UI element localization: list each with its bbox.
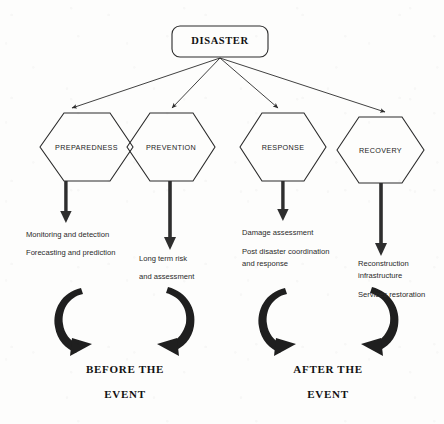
cycle-arc-right-outer	[258, 288, 296, 356]
cycle-caption-after-line2: EVENT	[263, 382, 393, 407]
connector-to-response	[220, 58, 278, 108]
cycle-arc-left-outer	[54, 288, 92, 356]
cycle-arc-left-inner	[157, 287, 195, 356]
cycle-caption-before-line1: BEFORE THE	[60, 357, 190, 382]
hexagon-label-preparedness: PREPAREDNESS	[40, 143, 133, 152]
description-response-1: Damage assessment	[242, 226, 313, 240]
connector-arrows	[72, 58, 385, 112]
thick-arrow-prevention	[164, 181, 176, 250]
hexagon-label-response: RESPONSE	[240, 143, 326, 152]
connector-to-recovery	[220, 58, 385, 112]
description-preparedness-1: Monitoring and detection	[26, 228, 109, 242]
thick-arrow-preparedness	[60, 181, 71, 223]
diagram-canvas: DISASTER PREPAREDNESS PREVENTION RESPONS…	[0, 0, 444, 424]
cycle-caption-after-line1: AFTER THE	[263, 357, 393, 382]
cycle-arrows-before	[54, 287, 194, 356]
connector-to-prevention	[172, 58, 220, 108]
description-response-3: and response	[242, 257, 288, 271]
description-recovery-2: infrastructure	[358, 269, 402, 283]
thick-arrows	[60, 181, 387, 256]
connector-to-preparedness	[72, 58, 220, 108]
thick-arrow-response	[277, 181, 288, 221]
description-recovery-3: Services restoration	[358, 288, 425, 302]
description-prevention-1: Long term risk	[139, 252, 187, 266]
thick-arrow-recovery	[375, 183, 387, 256]
description-prevention-2: and assessment	[139, 270, 194, 284]
disaster-node-label: DISASTER	[172, 35, 268, 46]
description-preparedness-2: Forecasting and prediction	[26, 246, 116, 260]
hexagon-label-recovery: RECOVERY	[337, 146, 424, 155]
hexagon-label-prevention: PREVENTION	[127, 143, 215, 152]
cycle-caption-before-line2: EVENT	[60, 382, 190, 407]
